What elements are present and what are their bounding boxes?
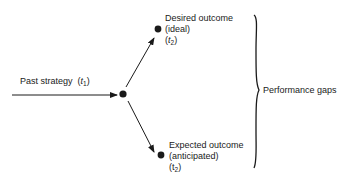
performance-gaps-text: Performance gaps xyxy=(263,85,337,95)
time-sub: 2 xyxy=(171,39,175,46)
center-node xyxy=(119,90,126,97)
arrow-to-desired xyxy=(126,38,154,87)
past-strategy-label: Past strategy (t1) xyxy=(20,76,90,89)
desired-outcome-title: Desired outcome xyxy=(165,13,233,24)
performance-gap-brace xyxy=(254,15,259,168)
expected-outcome-label: Expected outcome (anticipated) (t2) xyxy=(169,140,244,175)
expected-outcome-title: Expected outcome xyxy=(169,140,244,151)
desired-outcome-time: (t2) xyxy=(165,35,233,48)
desired-outcome-label: Desired outcome (ideal) (t2) xyxy=(165,13,233,48)
desired-outcome-qualifier: (ideal) xyxy=(165,24,233,35)
performance-gaps-label: Performance gaps xyxy=(263,85,337,96)
expected-outcome-node xyxy=(158,152,165,159)
expected-outcome-qualifier: (anticipated) xyxy=(169,151,244,162)
expected-outcome-time: (t2) xyxy=(169,162,244,175)
past-strategy-text: Past strategy xyxy=(20,76,73,86)
time-sub: 2 xyxy=(175,166,179,173)
arrow-to-expected xyxy=(128,101,154,152)
desired-outcome-node xyxy=(155,26,162,33)
time-sub: 1 xyxy=(83,80,87,87)
